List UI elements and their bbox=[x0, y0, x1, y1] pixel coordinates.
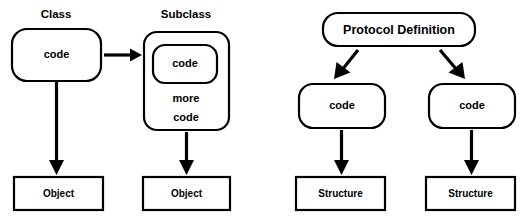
subclass-node: code more code bbox=[144, 32, 229, 130]
subclass-heading: Subclass bbox=[161, 8, 212, 20]
protocol-definition-label: Protocol Definition bbox=[343, 23, 455, 37]
class-heading: Class bbox=[41, 8, 72, 20]
class-object-node: Object bbox=[14, 177, 103, 210]
subclass-inner-code-label: code bbox=[172, 57, 198, 69]
arrow-subclass-to-object-head bbox=[179, 160, 194, 175]
diagram-svg: Class code Subclass code more code bbox=[0, 0, 522, 222]
protocol-definition-node: Protocol Definition bbox=[323, 13, 475, 46]
subclass-object-label: Object bbox=[171, 188, 203, 199]
class-object-label: Object bbox=[43, 188, 75, 199]
arrow-right-code-to-structure-head bbox=[464, 160, 479, 175]
arrow-class-to-object-head bbox=[49, 160, 64, 175]
right-structure-label: Structure bbox=[448, 188, 493, 199]
subclass-code-label: code bbox=[173, 111, 199, 123]
arrow-protocol-to-left-code-line bbox=[342, 50, 358, 70]
arrow-subclass-to-object bbox=[179, 132, 194, 175]
diagram-canvas: Class code Subclass code more code bbox=[0, 0, 522, 222]
right-structure-node: Structure bbox=[426, 177, 515, 210]
left-structure-node: Structure bbox=[296, 177, 385, 210]
right-code-label: code bbox=[459, 99, 485, 111]
class-node: code bbox=[12, 29, 101, 81]
left-code-node: code bbox=[299, 84, 385, 128]
arrow-right-code-to-structure bbox=[464, 130, 479, 175]
subclass-object-node: Object bbox=[143, 177, 230, 210]
arrow-class-to-object bbox=[49, 82, 64, 175]
arrow-protocol-to-right-code bbox=[440, 50, 465, 79]
arrow-left-code-to-structure bbox=[334, 130, 349, 175]
arrow-left-code-to-structure-head bbox=[334, 160, 349, 175]
left-structure-label: Structure bbox=[318, 188, 363, 199]
arrow-class-to-subclass-head bbox=[130, 49, 142, 62]
subclass-inner-code-node: code bbox=[153, 45, 217, 83]
class-node-label: code bbox=[44, 48, 70, 60]
arrow-protocol-to-right-code-line bbox=[440, 50, 457, 70]
arrow-protocol-to-left-code bbox=[334, 50, 358, 79]
right-code-node: code bbox=[429, 84, 515, 128]
subclass-more-label: more bbox=[173, 92, 200, 104]
arrow-class-to-subclass bbox=[104, 49, 142, 62]
left-code-label: code bbox=[329, 99, 355, 111]
